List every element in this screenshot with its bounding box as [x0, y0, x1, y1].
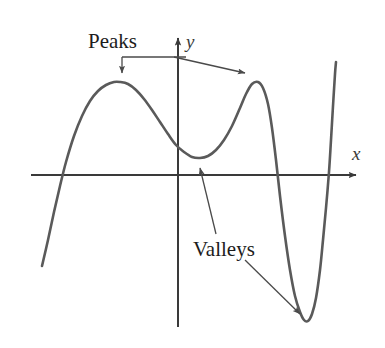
y-axis-label: y — [184, 31, 195, 52]
valleys-left-arrow — [200, 168, 216, 234]
peaks-label: Peaks — [88, 29, 137, 53]
polynomial-curve — [42, 62, 336, 322]
x-axis-label: x — [351, 143, 361, 164]
peaks-valleys-figure: x y Peaks Valleys — [0, 0, 385, 348]
graph-canvas: x y Peaks Valleys — [0, 0, 385, 348]
axes-group: x y — [31, 31, 361, 327]
peaks-right-arrow — [174, 57, 245, 73]
polynomial-curve-group — [42, 62, 336, 322]
peaks-annotation-group: Peaks — [88, 29, 245, 73]
valleys-annotation-group: Valleys — [193, 168, 300, 314]
valleys-label: Valleys — [193, 237, 255, 261]
